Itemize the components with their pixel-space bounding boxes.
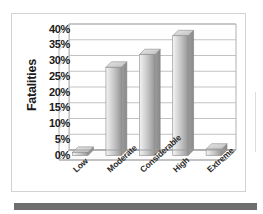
- x-axis-tick-label: Extreme: [205, 145, 236, 174]
- chart-frame: Fatalities 0%5%10%15%20%25%30%35%40% Low…: [11, 13, 246, 192]
- fatalities-bar-chart: Fatalities 0%5%10%15%20%25%30%35%40% Low…: [12, 14, 247, 193]
- x-axis-tick-label: Moderate: [105, 142, 139, 174]
- x-axis-tick-label: Low: [71, 156, 90, 174]
- x-axis-tick-labels: LowModerateConsiderableHighExtreme: [12, 14, 247, 193]
- x-axis-tick-label: High: [171, 154, 191, 174]
- right-margin-rule: [255, 92, 256, 152]
- bottom-band: [14, 203, 257, 210]
